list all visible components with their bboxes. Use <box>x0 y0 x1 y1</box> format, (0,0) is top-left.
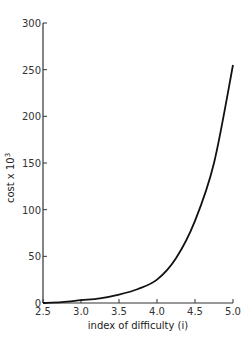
y-tick-label: 150 <box>22 158 41 169</box>
y-tick-label: 50 <box>28 251 41 262</box>
y-tick-label: 200 <box>22 111 41 122</box>
x-axis-label: index of difficulty (i) <box>88 320 188 331</box>
x-tick-label: 4.0 <box>149 306 165 317</box>
y-axis-label: cost x 103 <box>4 153 16 203</box>
cost-curve <box>43 65 233 303</box>
x-tick-label: 4.5 <box>187 306 203 317</box>
y-axis: 050100150200250300 <box>22 18 47 309</box>
x-tick-label: 3.5 <box>111 306 127 317</box>
x-tick-label: 5.0 <box>225 306 241 317</box>
y-tick-label: 300 <box>22 18 41 29</box>
cost-vs-difficulty-chart: 050100150200250300 2.53.03.54.04.55.0 co… <box>0 0 251 341</box>
x-tick-label: 3.0 <box>73 306 89 317</box>
y-tick-label: 100 <box>22 205 41 216</box>
y-tick-label: 250 <box>22 65 41 76</box>
x-tick-label: 2.5 <box>35 306 51 317</box>
